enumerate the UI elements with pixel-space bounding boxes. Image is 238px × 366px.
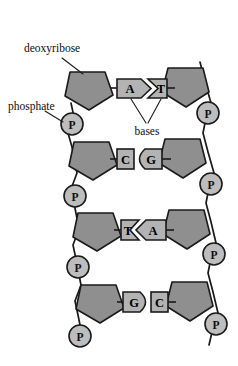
phosphate-letter-right-3: P [210, 249, 217, 261]
base-letter-A-3: A [148, 224, 157, 238]
phosphate-left-2: P [64, 185, 86, 207]
phosphate-letter-right-2: P [207, 179, 214, 191]
sugar-pentagon-left-4 [76, 285, 124, 323]
leader-line-phosphate [45, 111, 63, 122]
phosphate-letter-right-1: P [204, 108, 211, 120]
phosphate-left-1: P [61, 113, 83, 135]
label-bases: bases [135, 125, 160, 137]
phosphate-left-3: P [67, 256, 89, 278]
phosphate-letter-left-1: P [68, 119, 75, 131]
base-letter-C-4: C [155, 296, 164, 310]
base-pair-3: T A [114, 220, 174, 240]
base-letter-G-4: G [129, 296, 139, 310]
label-phosphate: phosphate [8, 100, 55, 113]
base-pair-1: A T [111, 79, 175, 98]
phosphate-right-1: P [197, 102, 219, 124]
phosphate-right-3: P [203, 243, 225, 265]
phosphate-right-2: P [200, 173, 222, 195]
base-letter-C-2: C [121, 153, 130, 167]
leader-line-bases-right [148, 99, 161, 123]
phosphate-left-4: P [69, 325, 91, 347]
phosphate-letter-left-2: P [71, 191, 78, 203]
phosphate-letter-left-3: P [74, 262, 81, 274]
base-letter-T-3: T [124, 224, 133, 238]
label-deoxyribose: deoxyribose [24, 42, 80, 55]
sugar-pentagon-left-1 [65, 72, 113, 110]
base-letter-G-2: G [146, 153, 156, 167]
base-pair-4: G C [117, 292, 176, 312]
dna-structure-diagram: P P P P P P [0, 0, 238, 366]
base-letter-A-1: A [125, 82, 134, 96]
phosphate-right-4: P [205, 313, 227, 335]
leader-line-bases-left [131, 99, 146, 123]
phosphate-letter-right-4: P [212, 319, 219, 331]
dna-diagram-canvas: P P P P P P [0, 0, 238, 366]
phosphate-letter-left-4: P [76, 331, 83, 343]
base-pair-2: C G [110, 149, 171, 169]
sugar-pentagon-left-3 [73, 213, 121, 251]
base-letter-T-1: T [157, 82, 166, 96]
